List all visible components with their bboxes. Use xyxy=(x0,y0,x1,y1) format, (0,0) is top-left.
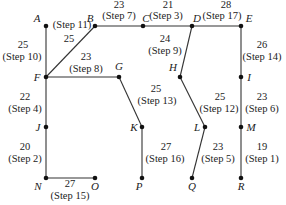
node-label: J xyxy=(36,121,42,133)
node-label: R xyxy=(237,180,245,192)
edge-weight-label: 22 xyxy=(20,91,31,102)
node-K xyxy=(140,125,145,130)
edge-H-L xyxy=(180,77,205,127)
node-B xyxy=(93,24,98,29)
edge-weight-label: 24 xyxy=(160,33,171,44)
edge-weight-label: 26 xyxy=(257,39,268,50)
node-label: P xyxy=(135,180,143,192)
edge-D-H xyxy=(180,26,192,77)
edge-step-label: (Step 9) xyxy=(148,45,182,57)
node-label: D xyxy=(192,12,201,24)
edge-step-label: (Step 15) xyxy=(51,190,90,202)
node-N xyxy=(44,176,49,181)
edge-weight-label: 25 xyxy=(151,83,162,94)
node-A xyxy=(44,24,49,29)
edge-step-label: (Step 13) xyxy=(138,95,177,107)
node-I xyxy=(239,75,244,80)
edge-weight-label: 23 xyxy=(213,141,224,152)
node-label: I xyxy=(246,71,252,83)
edge-step-label: (Step 8) xyxy=(69,63,103,75)
edge-step-label: (Step 10) xyxy=(3,51,42,63)
node-label: L xyxy=(193,121,200,133)
edge-weight-label: 27 xyxy=(161,141,172,152)
edge-step-label: (Step 2) xyxy=(8,153,42,165)
node-H xyxy=(178,75,183,80)
edge-weight-label: 21 xyxy=(163,0,174,10)
node-label: O xyxy=(91,180,99,192)
node-D xyxy=(190,24,195,29)
node-label: E xyxy=(245,12,253,24)
node-label: N xyxy=(33,180,42,192)
node-label: Q xyxy=(188,180,196,192)
edge-step-label: (Step 4) xyxy=(8,103,42,115)
edge-step-label: (Step 7) xyxy=(102,10,136,22)
diagram-svg: 25(Step 10)25(Step 11)23(Step 7)21(Step … xyxy=(0,0,286,205)
node-G xyxy=(117,75,122,80)
node-J xyxy=(44,125,49,130)
node-label: A xyxy=(33,12,41,24)
node-F xyxy=(44,75,49,80)
node-C xyxy=(141,24,146,29)
node-L xyxy=(203,125,208,130)
edge-weight-label: 27 xyxy=(65,178,76,189)
spanning-tree-diagram: 25(Step 10)25(Step 11)23(Step 7)21(Step … xyxy=(0,0,286,205)
edge-weight-label: 25 xyxy=(64,33,75,44)
edge-step-label: (Step 6) xyxy=(245,103,279,115)
edge-step-label: (Step 3) xyxy=(149,10,183,22)
edge-weight-label: 28 xyxy=(221,0,232,10)
node-label: F xyxy=(33,71,41,83)
edge-weight-label: 19 xyxy=(257,141,268,152)
node-label: H xyxy=(168,61,178,73)
edge-step-label: (Step 1) xyxy=(245,153,279,165)
node-label: G xyxy=(115,60,123,72)
edge-weight-label: 23 xyxy=(81,51,92,62)
node-label: B xyxy=(87,12,94,24)
node-E xyxy=(239,24,244,29)
edge-step-label: (Step 17) xyxy=(203,10,242,22)
node-M xyxy=(239,125,244,130)
edge-weight-label: 23 xyxy=(257,91,268,102)
edge-weight-label: 25 xyxy=(215,91,226,102)
edge-step-label: (Step 14) xyxy=(243,51,282,63)
edge-weight-label: 20 xyxy=(20,141,31,152)
edge-step-label: (Step 5) xyxy=(201,153,235,165)
edge-weight-label: 23 xyxy=(114,0,125,10)
edge-step-label: (Step 12) xyxy=(200,103,239,115)
node-label: K xyxy=(129,121,138,133)
node-label: M xyxy=(245,121,256,133)
edge-step-label: (Step 16) xyxy=(146,153,185,165)
node-label: C xyxy=(142,12,150,24)
edge-weight-label: 25 xyxy=(18,39,29,50)
